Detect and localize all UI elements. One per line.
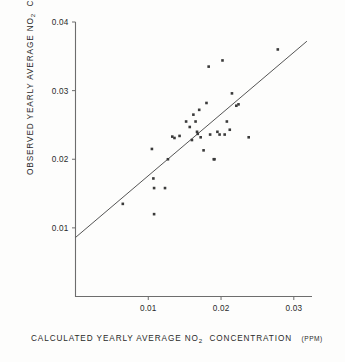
y-tick-label: 0.04 (52, 18, 69, 27)
data-point (226, 120, 229, 123)
data-point (152, 177, 155, 180)
x-axis-title: CALCULATED YEARLY AVERAGE NO2 CONCENTRAT… (31, 334, 323, 344)
data-point (194, 120, 197, 123)
x-tick-label: 0.01 (140, 304, 157, 313)
x-tick-label: 0.03 (285, 304, 302, 313)
data-point (198, 109, 201, 112)
data-point (216, 131, 219, 134)
data-point (209, 133, 212, 136)
data-point (213, 158, 216, 161)
plot-canvas: 0.010.020.030.04 0.010.020.03 OBSERVED Y… (0, 0, 345, 362)
data-point (205, 102, 208, 105)
data-point (199, 136, 202, 139)
y-tick-label: 0.03 (52, 87, 69, 96)
data-point (167, 158, 170, 161)
y-axis-title-text: OBSERVED YEARLY AVERAGE NO2 CONCENTRATIO… (26, 0, 36, 175)
x-axis-title-text: CALCULATED YEARLY AVERAGE NO2 CONCENTRAT… (31, 334, 323, 344)
data-point (218, 133, 221, 136)
data-point (153, 213, 156, 216)
y-axis-tick-labels: 0.010.020.030.04 (52, 18, 69, 233)
data-point (153, 187, 156, 190)
data-point (164, 187, 167, 190)
y-tick-label: 0.02 (52, 155, 69, 164)
y-axis-title: OBSERVED YEARLY AVERAGE NO2 CONCENTRATIO… (26, 0, 36, 175)
data-point (247, 136, 250, 139)
data-point (188, 126, 191, 129)
data-point (122, 203, 125, 206)
data-point (191, 139, 194, 142)
data-point (196, 133, 199, 136)
data-point (178, 135, 181, 138)
data-point (221, 59, 224, 62)
scatter-plot-figure: 0.010.020.030.04 0.010.020.03 OBSERVED Y… (0, 0, 345, 362)
data-point (207, 65, 210, 68)
data-point (223, 133, 226, 136)
data-point (237, 103, 240, 106)
data-point (231, 92, 234, 95)
data-point (228, 128, 231, 131)
data-point (192, 113, 195, 116)
data-point (276, 48, 279, 51)
data-point (151, 148, 154, 151)
x-axis-tick-labels: 0.010.020.03 (140, 304, 303, 313)
y-tick-label: 0.01 (52, 224, 69, 233)
data-point (173, 137, 176, 140)
x-tick-label: 0.02 (213, 304, 230, 313)
data-point (202, 149, 205, 152)
data-point (185, 120, 188, 123)
